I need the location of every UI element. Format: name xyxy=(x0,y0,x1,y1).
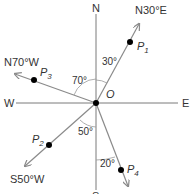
origin-label: O xyxy=(106,88,115,100)
origin-point xyxy=(93,100,99,106)
angle-label-20: 20° xyxy=(100,158,115,169)
east-label: E xyxy=(182,97,189,109)
bearing-label-n70w: N70°W xyxy=(4,56,40,68)
bearing-label-s50w: S50°W xyxy=(10,173,45,185)
point-p2 xyxy=(46,142,52,148)
west-label: W xyxy=(4,97,15,109)
point-p3 xyxy=(31,77,37,83)
point-label-p4: P4 xyxy=(127,163,139,178)
arc-30 xyxy=(96,80,107,83)
point-label-p2: P2 xyxy=(32,133,44,148)
angle-label-30: 30° xyxy=(102,56,117,67)
angle-label-70: 70° xyxy=(72,75,87,86)
compass-figure: N S W E O N30°E N70°W S50°W P1 P3 P2 P4 … xyxy=(0,0,192,194)
point-label-p3: P3 xyxy=(40,66,52,81)
bearings-diagram: N S W E O N30°E N70°W S50°W P1 P3 P2 P4 … xyxy=(0,0,192,194)
point-label-p1: P1 xyxy=(137,40,149,55)
point-p1 xyxy=(127,39,133,45)
bearing-label-n30e: N30°E xyxy=(135,4,167,16)
ray-s20e xyxy=(96,103,128,186)
point-p4 xyxy=(118,167,124,173)
south-label: S xyxy=(92,190,99,194)
north-label: N xyxy=(92,2,100,14)
angle-label-50: 50° xyxy=(78,126,93,137)
